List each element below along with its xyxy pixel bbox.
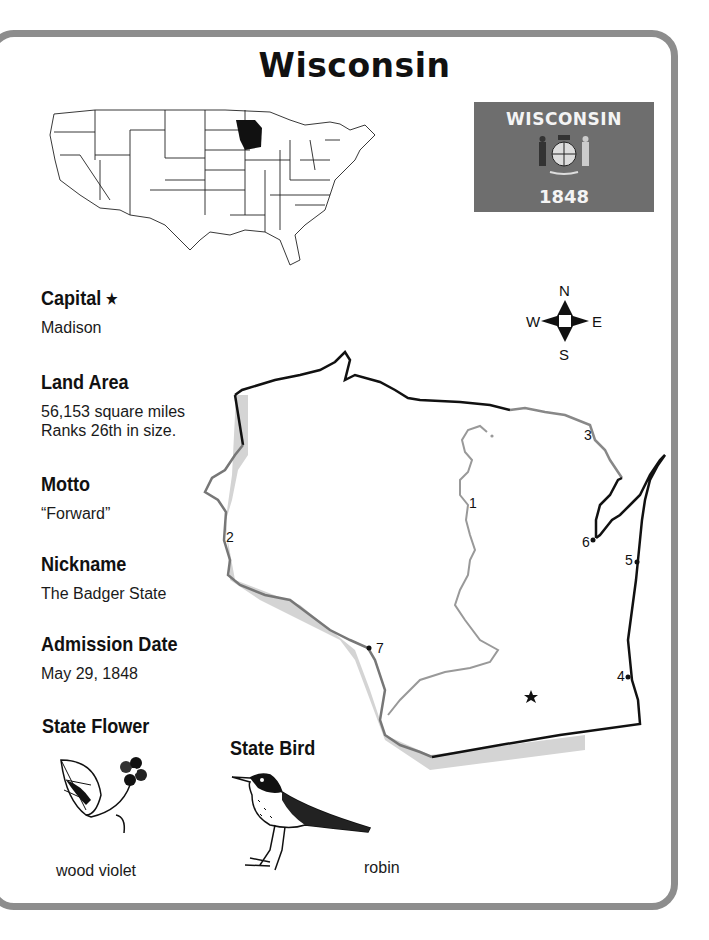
us-locator-map [40, 100, 380, 270]
fact-capital: Capital ★ Madison [41, 286, 130, 337]
fact-value: May 29, 1848 [41, 664, 200, 683]
fact-motto: Motto “Forward” [41, 472, 110, 523]
fact-heading: Capital ★ [41, 286, 117, 310]
wood-violet-illustration [56, 755, 156, 845]
fact-value: Ranks 26th in size. [41, 421, 185, 440]
state-flower-heading: State Flower [42, 714, 149, 738]
compass-east: E [592, 313, 602, 330]
fact-value: Madison [41, 318, 130, 337]
compass-north: N [559, 282, 570, 299]
page-title: Wisconsin [0, 46, 709, 85]
map-label-6: 6 [582, 534, 590, 550]
wisconsin-map [190, 340, 680, 780]
fact-heading: Nickname [41, 552, 149, 576]
compass-west: W [526, 313, 540, 330]
fact-heading: Admission Date [41, 632, 177, 656]
fact-value: “Forward” [41, 504, 110, 523]
map-label-2: 2 [226, 529, 234, 545]
map-label-3: 3 [584, 427, 592, 443]
flag-name: WISCONSIN [474, 109, 654, 129]
map-label-4: 4 [617, 668, 625, 684]
coat-of-arms-icon [534, 132, 594, 182]
state-bird-heading: State Bird [230, 736, 315, 760]
capital-star-icon: ★ [106, 290, 117, 307]
fact-heading: Land Area [41, 370, 165, 394]
map-label-7: 7 [376, 640, 384, 656]
map-label-5: 5 [625, 552, 633, 568]
fact-admission-date: Admission Date May 29, 1848 [41, 632, 200, 683]
robin-illustration [230, 770, 375, 880]
state-flag: WISCONSIN 1848 [474, 102, 654, 212]
state-flower-caption: wood violet [56, 862, 136, 880]
fact-nickname: Nickname The Badger State [41, 552, 166, 603]
map-label-1: 1 [469, 495, 477, 511]
flag-year: 1848 [474, 186, 654, 207]
state-bird-caption: robin [364, 859, 400, 877]
fact-value: 56,153 square miles [41, 402, 185, 421]
capital-star-icon [524, 690, 538, 703]
fact-heading: Motto [41, 472, 101, 496]
fact-land-area: Land Area 56,153 square miles Ranks 26th… [41, 370, 185, 440]
fact-value: The Badger State [41, 584, 166, 603]
